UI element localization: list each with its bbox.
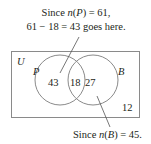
set-b-label: B bbox=[118, 67, 124, 78]
top-annotation-line1: Since n(P) = 61, bbox=[42, 8, 111, 19]
bottom-annotation: Since n(B) = 45. bbox=[73, 130, 142, 141]
universe-label: U bbox=[17, 57, 25, 68]
annotation-suffix: ) = 61, bbox=[83, 7, 111, 18]
annotation-text: Since bbox=[42, 7, 68, 18]
top-annotation-line2: 61 − 18 = 43 goes here. bbox=[26, 22, 125, 33]
annotation-text: Since bbox=[73, 129, 99, 140]
annotation-suffix: ) = 45. bbox=[114, 129, 142, 140]
set-p-label: P bbox=[33, 67, 39, 78]
bottom-pointer-line bbox=[97, 96, 110, 127]
region-b-only: 27 bbox=[85, 78, 96, 89]
region-intersection: 18 bbox=[70, 78, 81, 89]
region-outside: 12 bbox=[122, 103, 133, 114]
region-p-only: 43 bbox=[48, 78, 59, 89]
